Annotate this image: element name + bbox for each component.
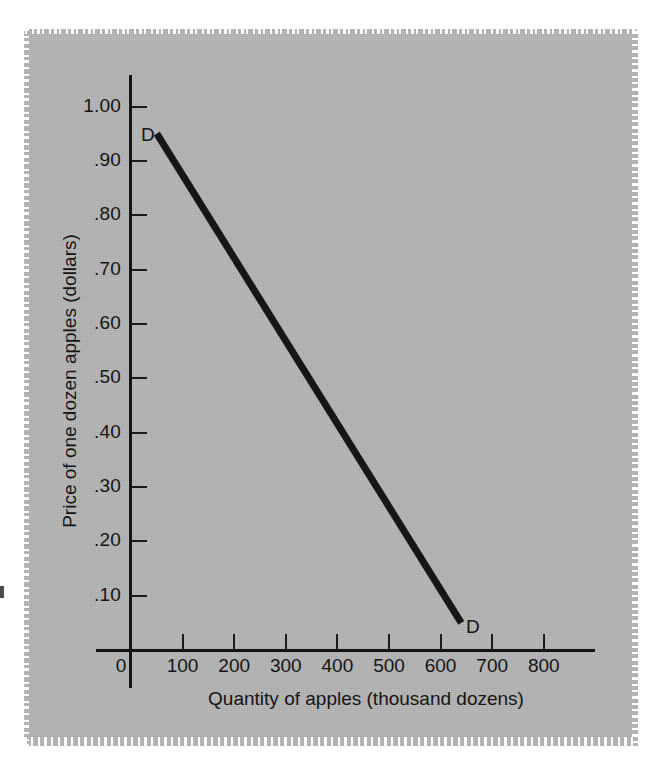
demand-curve-label-lower: D (466, 616, 480, 638)
y-axis-title: Price of one dozen apples (dollars) (59, 171, 81, 591)
plot-area: .10.20.30.40.50.60.70.80.901.00 01002003… (0, 0, 659, 760)
demand-curve-svg (0, 0, 659, 760)
x-axis-title: Quantity of apples (thousand dozens) (131, 688, 601, 710)
demand-curve-label-upper: D (141, 124, 155, 146)
demand-curve-line (157, 134, 461, 623)
